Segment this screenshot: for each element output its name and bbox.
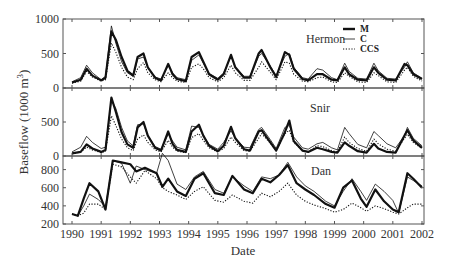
panel-label-hermon: Hermon: [306, 32, 345, 46]
legend-entry-m: M: [343, 24, 369, 34]
y-tick-label: 200: [41, 217, 59, 231]
panel-snir: 0500 Snir: [41, 88, 424, 163]
y-tick-label: 800: [41, 163, 59, 177]
y-ticks-dan: 200400600800: [41, 163, 424, 231]
x-tick-label: 1998: [293, 227, 317, 241]
x-tick-label: 1990: [60, 227, 84, 241]
plot-area-hermon: [72, 26, 422, 83]
x-tick-label: 1994: [177, 227, 201, 241]
x-axis-title: Date: [231, 243, 256, 258]
panel-label-snir: Snir: [310, 101, 330, 115]
y-tick-label: 1000: [35, 12, 59, 26]
x-tick-label: 1992: [118, 227, 142, 241]
x-tick-label: 1993: [148, 227, 172, 241]
y-axis-title: Baseflow (1000 m3): [15, 70, 31, 175]
svg-text:CCS: CCS: [360, 44, 379, 54]
x-tick-label: 1991: [89, 227, 113, 241]
y-tick-label: 500: [41, 115, 59, 129]
panel-dan: 200400600800 Dan: [41, 153, 424, 231]
y-tick-label: 600: [41, 181, 59, 195]
legend-entry-c: C: [343, 34, 367, 44]
x-tick-label: 2002: [410, 227, 434, 241]
x-tick-label: 1997: [264, 227, 288, 241]
y-tick-label: 0: [53, 81, 59, 95]
legend: M C CCS: [343, 24, 379, 54]
y-tick-label: 500: [41, 47, 59, 61]
legend-entry-ccs: CCS: [343, 44, 379, 54]
svg-text:C: C: [360, 34, 367, 44]
baseflow-chart: Baseflow (1000 m3) 05001000 Hermon 0500 …: [0, 0, 454, 271]
plot-area-dan: [72, 153, 422, 216]
panel-label-dan: Dan: [311, 164, 331, 178]
x-tick-label: 1999: [323, 227, 347, 241]
series-m-line: [72, 31, 422, 82]
svg-text:M: M: [360, 24, 369, 34]
x-tick-label: 1996: [235, 227, 259, 241]
series-c-line: [72, 100, 422, 152]
plot-area-snir: [72, 98, 422, 155]
x-tick-label: 2000: [352, 227, 376, 241]
x-tick-label: 2001: [381, 227, 405, 241]
x-tick-label: 1995: [206, 227, 230, 241]
y-tick-label: 400: [41, 199, 59, 213]
series-m-line: [72, 98, 422, 154]
y-tick-label: 0: [53, 149, 59, 163]
